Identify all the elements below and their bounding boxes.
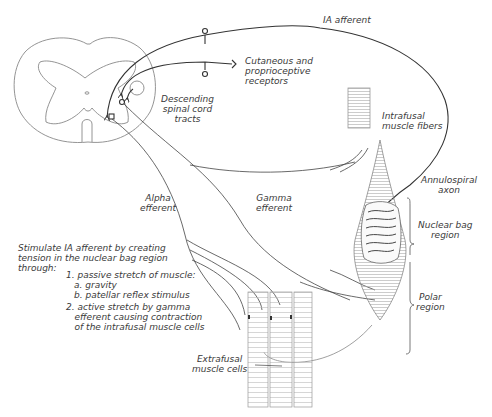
spinal-cord-cross-section: [14, 38, 155, 143]
note-item-1a: a. gravity: [74, 280, 117, 290]
label-cutaneous-receptors: Cutaneous and proprioceptive receptors: [245, 56, 313, 86]
label-gamma-efferent: Gamma efferent: [256, 193, 292, 213]
note-intro: Stimulate IA afferent by creating tensio…: [18, 243, 168, 273]
label-ia-afferent: IA afferent: [323, 15, 371, 25]
label-nuclear-bag-region: Nuclear bag region: [418, 220, 472, 240]
region-brackets: [406, 198, 414, 354]
label-alpha-efferent: Alpha efferent: [140, 193, 176, 213]
label-polar-region: Polar region: [416, 292, 445, 312]
note-item-1b: b. patellar reflex stimulus: [74, 290, 190, 300]
label-annulospiral-axon: Annulospiral axon: [421, 175, 477, 195]
note-item-1: 1. passive stretch of muscle:: [66, 270, 196, 280]
note-item-2: 2. active stretch by gamma efferent caus…: [66, 302, 204, 332]
label-intrafusal-fibers: Intrafusal muscle fibers: [382, 111, 442, 131]
extrafusal-muscle-cells: [248, 292, 312, 407]
label-descending-tracts: Descending spinal cord tracts: [161, 94, 214, 124]
label-extrafusal-cells: Extrafusal muscle cells: [192, 354, 247, 374]
